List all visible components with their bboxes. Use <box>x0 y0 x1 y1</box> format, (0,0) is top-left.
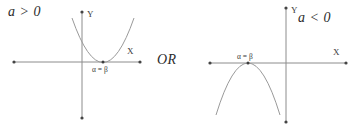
y-axis-bottom-endpoint-dot <box>80 116 83 119</box>
x-axis-right-endpoint-dot <box>344 61 347 64</box>
x-axis-right-endpoint-dot <box>138 60 141 63</box>
root-label: α = β <box>237 52 253 61</box>
plot-a-greater-than-zero: X Y α = β a > 0 <box>0 0 178 127</box>
y-axis-label: Y <box>291 5 298 15</box>
parabola-curve-downward <box>216 63 280 115</box>
quadratic-equal-roots-figure: X Y α = β a > 0 OR X Y α = <box>0 0 356 127</box>
vertex-point <box>102 61 105 64</box>
parabola-curve-upward <box>72 18 134 63</box>
y-axis-label: Y <box>87 9 94 19</box>
x-axis-left-endpoint-dot <box>208 61 211 64</box>
y-axis-top-endpoint-dot <box>284 6 287 9</box>
x-axis-label: X <box>127 46 134 56</box>
x-axis-left-endpoint-dot <box>12 60 15 63</box>
y-axis-bottom-endpoint-dot <box>284 120 287 123</box>
root-label: α = β <box>92 65 108 74</box>
coefficient-condition-label: a > 0 <box>8 4 41 20</box>
plot-a-less-than-zero: X Y α = β a < 0 <box>178 0 356 127</box>
x-axis-label: X <box>333 47 340 57</box>
or-connector-label: OR <box>157 52 177 68</box>
coefficient-condition-label: a < 0 <box>298 10 331 26</box>
vertex-point <box>247 62 250 65</box>
y-axis-top-endpoint-dot <box>80 10 83 13</box>
